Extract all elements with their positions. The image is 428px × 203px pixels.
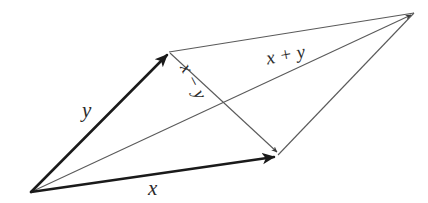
label-vector-x: x — [148, 178, 157, 199]
vector-diagram: y x x + y x − y — [0, 0, 428, 203]
vector-y — [31, 55, 167, 192]
parallelogram-right-edge — [278, 13, 414, 155]
vector-diagram-canvas — [0, 0, 428, 203]
label-vector-y: y — [82, 100, 91, 121]
